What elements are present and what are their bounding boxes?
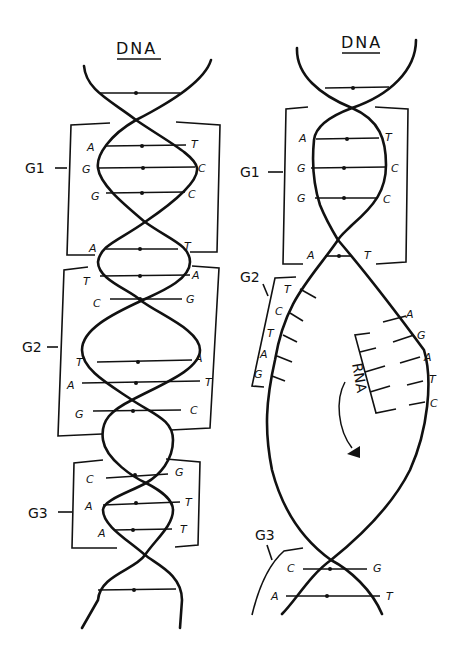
svg-text:C: C [430, 397, 438, 410]
svg-text:T: T [429, 373, 437, 386]
right-base-letters: A T G C G C A T T C T A G A G A T C C G … [254, 131, 438, 603]
svg-text:C: C [391, 162, 399, 175]
svg-text:T: T [180, 523, 188, 536]
svg-text:T: T [83, 275, 91, 288]
svg-text:A: A [405, 308, 414, 321]
svg-text:A: A [194, 352, 203, 365]
svg-text:T: T [386, 590, 394, 603]
svg-text:T: T [364, 249, 372, 262]
svg-text:C: C [287, 562, 295, 575]
svg-text:A: A [88, 242, 97, 255]
left-title: DNA [116, 39, 157, 58]
arrow-curve [339, 382, 352, 448]
svg-text:A: A [66, 379, 75, 392]
svg-text:A: A [97, 527, 106, 540]
right-strand-coding [331, 40, 428, 614]
svg-text:C: C [86, 473, 94, 486]
svg-text:T: T [185, 496, 193, 509]
svg-text:T: T [184, 240, 192, 253]
svg-text:G: G [91, 190, 100, 203]
svg-text:A: A [306, 249, 315, 262]
right-g1-label: G1 [240, 164, 260, 180]
right-g3-label: G3 [255, 527, 275, 543]
svg-text:C: C [190, 404, 198, 417]
svg-text:A: A [259, 348, 268, 361]
left-g2-label: G2 [22, 339, 42, 355]
svg-text:G: G [417, 329, 426, 342]
svg-text:C: C [383, 193, 391, 206]
svg-text:G: G [297, 162, 306, 175]
svg-text:G: G [186, 293, 195, 306]
svg-text:C: C [188, 188, 196, 201]
svg-text:T: T [267, 327, 275, 340]
svg-text:G: G [175, 466, 184, 479]
left-strand-1 [82, 66, 200, 628]
svg-text:G: G [82, 163, 91, 176]
left-g3-label: G3 [28, 505, 48, 521]
svg-text:A: A [191, 269, 200, 282]
left-base-pair-rungs [82, 91, 200, 592]
svg-text:T: T [191, 138, 199, 151]
svg-text:G: G [75, 408, 84, 421]
svg-text:A: A [270, 590, 279, 603]
right-strand-template [267, 48, 352, 614]
svg-text:T: T [284, 283, 292, 296]
svg-text:C: C [198, 162, 206, 175]
svg-text:C: C [275, 305, 283, 318]
arrow-head-icon [347, 446, 360, 458]
svg-text:C: C [93, 297, 101, 310]
dna-transcription-diagram: DNA [0, 0, 467, 656]
left-dna-diagram: DNA [22, 39, 220, 628]
right-title: DNA [341, 33, 382, 52]
left-g1-label: G1 [25, 160, 45, 176]
svg-text:A: A [423, 351, 432, 364]
svg-text:G: G [297, 192, 306, 205]
svg-text:G: G [254, 368, 263, 381]
svg-text:A: A [86, 141, 95, 154]
svg-text:A: A [84, 500, 93, 513]
right-dna-diagram: DNA [240, 33, 438, 615]
rna-label: RNA [349, 362, 370, 395]
right-g2-label: G2 [240, 269, 260, 285]
svg-text:G: G [373, 562, 382, 575]
svg-text:A: A [298, 132, 307, 145]
svg-text:T: T [385, 131, 393, 144]
